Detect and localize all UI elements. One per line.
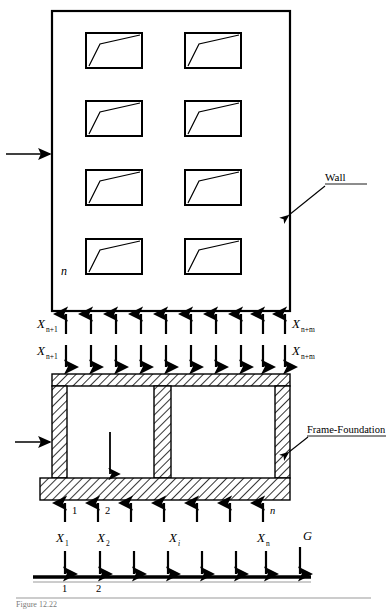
ground-line — [33, 577, 311, 582]
force-subscript: n+1 — [46, 325, 58, 334]
structural-diagram: n Wall X n+1 X n+m — [0, 0, 387, 611]
frame-middle-column — [154, 386, 171, 478]
force-symbol: X — [256, 530, 266, 545]
force-subscript: n+m — [301, 352, 315, 361]
interface-lower-arrows — [66, 345, 285, 367]
force-symbol: X — [55, 530, 65, 545]
figure-caption: Figure 12.22 — [16, 600, 57, 609]
frame-top-beam — [52, 374, 290, 386]
force-symbol: X — [96, 530, 106, 545]
soil-load-label: X 1 — [55, 530, 69, 548]
force-subscript: i — [178, 539, 180, 548]
soil-load-label: X 2 — [96, 530, 110, 548]
wall-window — [185, 33, 241, 68]
soil-load-label: X i — [168, 530, 180, 548]
wall-window — [185, 170, 241, 205]
force-subscript: 2 — [106, 539, 110, 548]
ground-tick-label: 2 — [96, 583, 101, 594]
frame-left-column — [52, 386, 67, 478]
wall-window — [86, 33, 142, 68]
soil-load-label: G — [303, 529, 312, 543]
force-symbol: X — [36, 343, 46, 358]
soil-load-label: X n — [256, 530, 270, 548]
ground-tick-label: 1 — [62, 583, 67, 594]
force-subscript: n+1 — [46, 352, 58, 361]
wall-window — [185, 239, 241, 274]
force-subscript: n — [266, 539, 270, 548]
wall-window — [86, 239, 142, 274]
frame-foundation-label: Frame-Foundation — [307, 424, 386, 435]
reaction-tick-label: 2 — [105, 505, 110, 516]
wall-window — [86, 101, 142, 136]
reaction-tick-label: n — [270, 505, 275, 516]
wall-index-label: n — [61, 264, 67, 278]
upper-left-force-label: X n+1 — [36, 316, 58, 334]
force-subscript: 1 — [65, 539, 69, 548]
reaction-tick-label: 1 — [72, 505, 77, 516]
interface-upper-arrows — [66, 314, 285, 334]
force-symbol: G — [303, 529, 312, 543]
lower-left-force-label: X n+1 — [36, 343, 58, 361]
force-symbol: X — [291, 316, 301, 331]
foundation-slab — [40, 478, 290, 500]
frame-foundation-callout — [289, 436, 386, 452]
force-symbol: X — [291, 343, 301, 358]
force-symbol: X — [168, 530, 178, 545]
wall-window — [86, 170, 142, 205]
soil-load-labels: X 1 X 2 X i X n G — [55, 529, 312, 548]
frame-right-column — [275, 386, 290, 478]
frame-foundation — [40, 374, 290, 500]
force-symbol: X — [36, 316, 46, 331]
lower-right-force-label: X n+m — [291, 343, 315, 361]
upper-right-force-label: X n+m — [291, 316, 315, 334]
force-subscript: n+m — [301, 325, 315, 334]
soil-load-arrows — [65, 547, 300, 574]
foundation-reaction-arrows — [65, 503, 263, 522]
wall-label: Wall — [325, 171, 346, 183]
wall-window — [185, 101, 241, 136]
wall-callout — [289, 184, 367, 215]
figure-container: n Wall X n+1 X n+m — [0, 0, 387, 611]
